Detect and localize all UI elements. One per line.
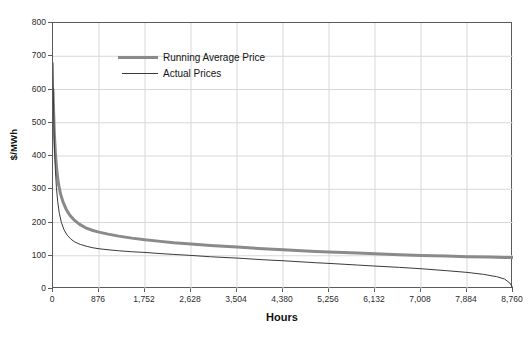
legend-label: Actual Prices [163, 68, 221, 79]
x-tick-label: 6,132 [352, 294, 396, 304]
legend-item-running-average: Running Average Price [118, 50, 278, 64]
y-tick-label: 700 [12, 50, 46, 60]
series-line [53, 63, 513, 288]
y-tick-mark [48, 288, 52, 289]
x-tick-label: 4,380 [260, 294, 304, 304]
y-tick-label: 600 [12, 84, 46, 94]
x-tick-label: 1,752 [122, 294, 166, 304]
legend-swatch-thick-line [118, 52, 158, 62]
y-tick-label: 200 [12, 217, 46, 227]
series-line [53, 90, 513, 258]
x-axis-title: Hours [52, 311, 512, 323]
x-tick-label: 8,760 [490, 294, 532, 304]
x-tick-label: 2,628 [168, 294, 212, 304]
y-tick-label: 300 [12, 183, 46, 193]
x-tick-label: 0 [30, 294, 74, 304]
x-tick-label: 7,884 [444, 294, 488, 304]
y-tick-label: 800 [12, 17, 46, 27]
x-tick-label: 5,256 [306, 294, 350, 304]
x-tick-label: 7,008 [398, 294, 442, 304]
y-tick-label: 0 [12, 283, 46, 293]
chart-figure: $/MWh 0100200300400500600700800 08761,75… [0, 0, 532, 337]
legend-swatch-thin-line [118, 68, 158, 78]
y-axis-title: $/MWh [8, 115, 19, 175]
legend-item-actual-prices: Actual Prices [118, 66, 278, 80]
x-tick-label: 3,504 [214, 294, 258, 304]
chart-legend: Running Average Price Actual Prices [118, 50, 278, 82]
y-tick-label: 100 [12, 250, 46, 260]
legend-label: Running Average Price [163, 52, 265, 63]
x-tick-label: 876 [76, 294, 120, 304]
